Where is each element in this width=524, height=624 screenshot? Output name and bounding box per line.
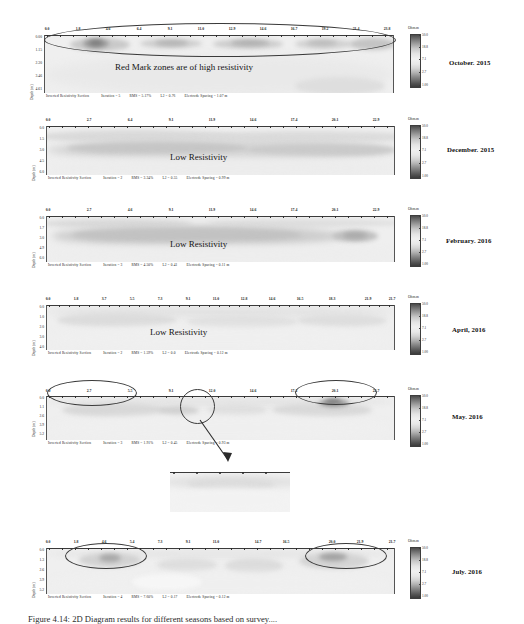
x-tick: 9.1 xyxy=(164,389,178,393)
colorbar-tick: 7.1 xyxy=(422,326,426,330)
x-tick: 6.4 xyxy=(123,118,137,122)
caption-part: RMS = 7.60% xyxy=(132,595,154,599)
colorbar-unit-label: Ohm.m xyxy=(408,26,419,30)
y-tick: 2.6 xyxy=(22,414,44,418)
caption-part: Inverted Resistivity Section xyxy=(48,441,91,445)
resistivity-section xyxy=(46,126,395,175)
caption-part: L2 = 0.76 xyxy=(160,94,175,98)
colorbar-tick: 2.7 xyxy=(422,70,426,74)
caption-part: L2 = 0.0 xyxy=(162,351,175,355)
colorbar-tick: 18.8 xyxy=(422,558,428,562)
colorbar-gradient xyxy=(410,215,421,267)
y-tick: 3.9 xyxy=(22,578,44,582)
panel-date-label: July. 2016 xyxy=(452,568,482,575)
caption-part: Electrode Spacing = 1.07 m xyxy=(185,94,228,98)
caption-part: Electrode Spacing = 0.93 m xyxy=(187,441,230,445)
y-tick: 0.0 xyxy=(22,396,44,400)
y-tick: 5.2 xyxy=(22,588,44,592)
colorbar-tick: 7.1 xyxy=(422,148,426,152)
resistivity-section-inset xyxy=(170,472,290,512)
colorbar-tick: 18.8 xyxy=(422,406,428,410)
x-tick: 21.7 xyxy=(385,540,399,544)
highlight-ellipse-right xyxy=(305,543,387,569)
x-tick: 14.7 xyxy=(251,540,265,544)
x-tick: 7.3 xyxy=(153,540,167,544)
colorbar-tick: 7.1 xyxy=(422,57,426,61)
colorbar-tick: 7.1 xyxy=(422,418,426,422)
caption-part: RMS = 3.34% xyxy=(132,176,154,180)
x-tick: 20.1 xyxy=(328,118,342,122)
y-tick: 5.2 xyxy=(22,432,44,436)
caption-part: Iteration = 4 xyxy=(103,595,122,599)
x-tick: 0.0 xyxy=(40,27,54,31)
x-tick: 5.5 xyxy=(125,297,139,301)
x-tick: 4.6 xyxy=(123,208,137,212)
colorbar-gradient xyxy=(410,395,421,447)
electrode-markers xyxy=(47,305,394,308)
panel-caption: Inverted Resistivity Section Iteration =… xyxy=(48,441,229,445)
x-tick: 22.9 xyxy=(369,208,383,212)
caption-part: Iteration = 3 xyxy=(103,263,122,267)
colorbar-tick: 50.0 xyxy=(422,302,428,306)
colorbar-tick: 7.1 xyxy=(422,238,426,242)
colorbar-tick: 1.00 xyxy=(422,442,428,446)
caption-part: RMS = 4.50% xyxy=(132,263,154,267)
panel-caption: Inverted Resistivity Section Iteration =… xyxy=(48,263,229,267)
x-tick: 11.9 xyxy=(205,118,219,122)
y-tick: 3.0 xyxy=(22,148,44,152)
x-tick: 9.1 xyxy=(181,297,195,301)
x-tick: 14.6 xyxy=(265,297,279,301)
colorbar-tick: 18.8 xyxy=(422,226,428,230)
caption-part: L2 = 0.17 xyxy=(162,595,177,599)
panel-caption: Inverted Resistivity Section Iteration =… xyxy=(46,94,227,98)
highlight-ellipse-right xyxy=(295,380,377,405)
caption-part: Electrode Spacing = 0.12 m xyxy=(187,595,230,599)
colorbar-tick: 1.00 xyxy=(422,594,428,598)
caption-part: Iteration = 5 xyxy=(101,94,120,98)
x-tick: 12.8 xyxy=(237,297,251,301)
y-tick: 1.0 xyxy=(22,315,44,319)
colorbar-tick: 7.1 xyxy=(422,570,426,574)
colorbar-tick: 1.00 xyxy=(422,262,428,266)
x-tick: 11.0 xyxy=(209,540,223,544)
colorbar-tick: 2.7 xyxy=(422,430,426,434)
colorbar-tick: 18.8 xyxy=(422,45,428,49)
y-tick: 6.0 xyxy=(22,256,44,260)
x-tick: 9.1 xyxy=(181,540,195,544)
y-tick: 1.3 xyxy=(22,558,44,562)
x-tick: 21.9 xyxy=(361,297,375,301)
x-tick: 14.6 xyxy=(246,208,260,212)
colorbar-tick: 1.00 xyxy=(422,350,428,354)
panel-april-2016: Depth (m) 0.0 1.0 2.0 3.0 4.0 0.0 1.8 3.… xyxy=(0,294,524,362)
resistivity-section xyxy=(46,305,395,350)
annotation-high-resistivity: Red Mark zones are of high resistivity xyxy=(115,62,253,72)
y-tick: 3.0 xyxy=(22,236,44,240)
caption-part: Iteration = 2 xyxy=(103,351,122,355)
colorbar-tick: 50.0 xyxy=(422,546,428,550)
panel-october-2015: Depth (m) 0.00 1.15 2.30 3.46 4.61 0.0 1… xyxy=(0,26,524,96)
panel-inset-zoom xyxy=(0,470,524,515)
x-tick: 2.7 xyxy=(82,208,96,212)
y-tick: 0.0 xyxy=(22,548,44,552)
caption-part: Electrode Spacing = 0.99 m xyxy=(187,176,230,180)
x-tick: 18.3 xyxy=(325,297,339,301)
colorbar-unit-label: Ohm.m xyxy=(408,207,419,211)
y-tick: 3.46 xyxy=(20,74,42,78)
x-tick: 1.8 xyxy=(69,540,83,544)
colorbar-tick: 1.00 xyxy=(422,174,428,178)
x-tick: 2.7 xyxy=(82,118,96,122)
x-tick: 9.1 xyxy=(164,208,178,212)
y-tick: 1.5 xyxy=(22,137,44,141)
y-tick: 0.0 xyxy=(22,305,44,309)
panel-may-2016: Depth (m) 0.0 1.1 2.6 3.9 5.2 0.0 2.7 5.… xyxy=(0,375,524,447)
panel-december-2015: Depth (m) 0.0 1.5 3.0 4.5 6.0 0.0 2.7 6.… xyxy=(0,115,524,185)
y-tick: 1.7 xyxy=(22,226,44,230)
figure-caption: Figure 4.14: 2D Diagram results for diff… xyxy=(28,614,277,624)
caption-part: L2 = 0.55 xyxy=(162,176,177,180)
colorbar-tick: 18.8 xyxy=(422,136,428,140)
y-tick: 4.0 xyxy=(22,345,44,349)
colorbar-gradient xyxy=(410,125,421,179)
x-tick: 17.4 xyxy=(287,118,301,122)
caption-part: RMS = 1.91% xyxy=(132,441,154,445)
